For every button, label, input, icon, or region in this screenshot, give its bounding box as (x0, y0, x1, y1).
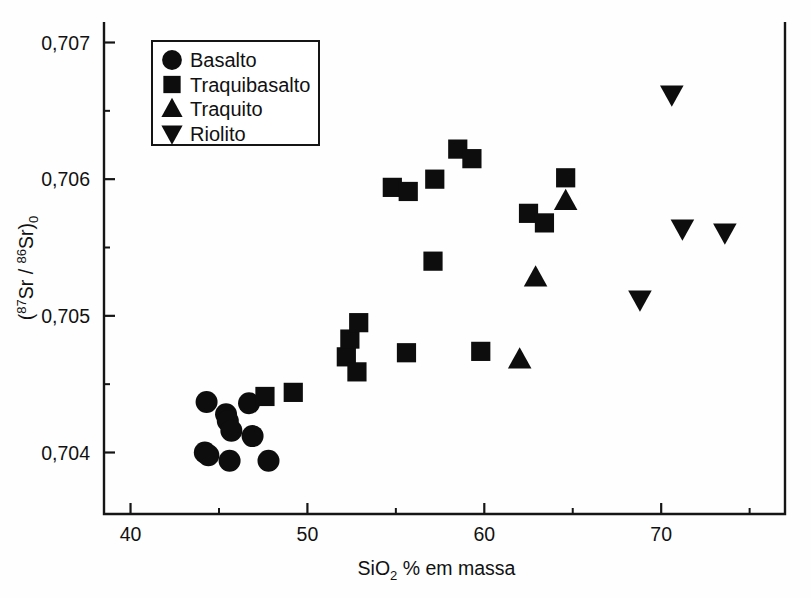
data-point-circle (219, 450, 241, 472)
y-tick-labels: 0,7040,7050,7060,707 (41, 32, 90, 464)
data-point-square (347, 362, 366, 381)
legend-marker-circle (162, 50, 182, 70)
y-tick-label: 0,707 (41, 32, 90, 54)
x-tick-label: 60 (473, 523, 495, 545)
y-tick-label: 0,705 (41, 305, 90, 327)
legend-item-label: Traquito (190, 98, 263, 120)
x-tick-label: 70 (650, 523, 672, 545)
data-point-square (556, 168, 575, 187)
y-tick-label: 0,706 (41, 168, 90, 190)
x-tick-label: 50 (297, 523, 319, 545)
chart-legend: BasaltoTraquibasaltoTraquitoRiolito (152, 41, 319, 145)
data-point-square (471, 342, 490, 361)
data-point-circle (197, 444, 219, 466)
data-point-square (349, 313, 368, 332)
data-point-triangle-down (660, 86, 684, 107)
scatter-chart-figure: 40506070 0,7040,7050,7060,707 BasaltoTra… (0, 0, 811, 598)
data-point-triangle-down (671, 219, 695, 240)
x-axis-title: SiO2 % em massa (358, 557, 516, 583)
legend-marker-square (163, 76, 180, 93)
data-point-triangle-down (628, 291, 652, 312)
data-point-circle (220, 420, 242, 442)
data-point-circle (258, 450, 280, 472)
y-axis-title: (87Sr / 86Sr)0 (14, 216, 41, 320)
data-point-triangle-up (524, 265, 548, 286)
data-point-square (284, 383, 303, 402)
y-tick-label: 0,704 (41, 442, 90, 464)
legend-item-label: Riolito (190, 123, 246, 145)
data-point-square (425, 170, 444, 189)
data-point-triangle-down (713, 224, 737, 245)
data-point-circle (196, 391, 218, 413)
data-point-square (255, 387, 274, 406)
data-point-square (397, 343, 416, 362)
data-point-square (340, 329, 359, 348)
legend-item-label: Basalto (190, 49, 257, 71)
data-point-circle (242, 425, 264, 447)
series-riolito (628, 86, 736, 312)
data-point-square (462, 149, 481, 168)
data-point-triangle-up (554, 189, 578, 210)
legend-item-basalto[interactable]: Basalto (162, 49, 257, 71)
plot-canvas: 40506070 0,7040,7050,7060,707 BasaltoTra… (0, 0, 811, 598)
data-point-square (399, 182, 418, 201)
data-point-triangle-up (508, 347, 532, 368)
legend-item-label: Traquibasalto (190, 74, 310, 96)
data-point-square (423, 252, 442, 271)
x-tick-label: 40 (120, 523, 142, 545)
data-point-square (535, 213, 554, 232)
x-tick-labels: 40506070 (120, 523, 672, 545)
